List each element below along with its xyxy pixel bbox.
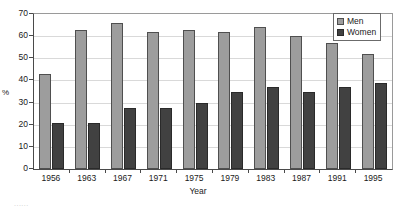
bar-men-1987 [290, 36, 302, 169]
bar-group [213, 14, 249, 169]
bar-men-1956 [39, 74, 51, 169]
legend-item-men[interactable]: Men [337, 16, 376, 27]
y-axis-tick-label: 70 [6, 9, 28, 18]
bar-group [70, 14, 106, 169]
x-axis-tick-label: 1983 [248, 174, 284, 183]
y-axis-tick-label: 60 [6, 31, 28, 40]
x-axis-tick-label: 1971 [140, 174, 176, 183]
bar-women-1956 [52, 123, 64, 170]
bar-group [177, 14, 213, 169]
bar-men-1971 [147, 32, 159, 169]
y-axis-tick-label: 40 [6, 75, 28, 84]
x-axis-tick-label: 1975 [176, 174, 212, 183]
x-axis-tick [248, 169, 249, 173]
y-axis-tick-label: 20 [6, 120, 28, 129]
bar-men-1979 [218, 32, 230, 169]
x-axis-tick [212, 169, 213, 173]
bar-men-1963 [75, 30, 87, 170]
y-axis-tick-label: 50 [6, 53, 28, 62]
legend-swatch-women-icon [337, 29, 344, 36]
legend-label-men: Men [347, 17, 364, 26]
bar-men-1995 [362, 54, 374, 169]
bar-women-1987 [303, 92, 315, 170]
x-axis-tick-label: 1991 [319, 174, 355, 183]
bar-men-1991 [326, 43, 338, 169]
x-axis-tick [319, 169, 320, 173]
legend-label-women: Women [347, 28, 376, 37]
chart-legend[interactable]: Men Women [333, 13, 381, 41]
x-axis-tick-label: 1979 [212, 174, 248, 183]
y-axis-tick-label: 10 [6, 142, 28, 151]
x-axis-tick [176, 169, 177, 173]
x-axis-tick [284, 169, 285, 173]
y-axis-tick-label: 30 [6, 98, 28, 107]
legend-item-women[interactable]: Women [337, 27, 376, 38]
bar-men-1983 [254, 27, 266, 169]
y-axis-tick-label: 0 [6, 164, 28, 173]
x-axis-tick [140, 169, 141, 173]
bar-women-1991 [339, 87, 351, 169]
x-axis-title: Year [0, 186, 396, 196]
x-axis-tick [69, 169, 70, 173]
bar-women-1983 [267, 87, 279, 169]
bar-women-1963 [88, 123, 100, 170]
bar-women-1971 [160, 108, 172, 169]
legend-swatch-men-icon [337, 18, 344, 25]
bar-women-1979 [231, 92, 243, 170]
bar-chart-figure: % 010203040506070 1956196319671971197519… [0, 0, 396, 208]
x-axis-tick-label: 1963 [69, 174, 105, 183]
bar-group [106, 14, 142, 169]
x-axis-tick [355, 169, 356, 173]
x-axis-tick [105, 169, 106, 173]
x-axis-tick-label: 1967 [105, 174, 141, 183]
bar-group [141, 14, 177, 169]
bar-group [249, 14, 285, 169]
bar-group [285, 14, 321, 169]
bar-women-1975 [196, 103, 208, 169]
bar-women-1967 [124, 108, 136, 169]
x-axis-tick-label: 1956 [33, 174, 69, 183]
y-axis-title: % [2, 88, 9, 97]
caption-fragment: ...... [14, 200, 29, 206]
x-axis-tick-label: 1995 [355, 174, 391, 183]
bar-women-1995 [375, 83, 387, 169]
x-axis-tick-label: 1987 [284, 174, 320, 183]
bar-men-1975 [183, 30, 195, 170]
bar-men-1967 [111, 23, 123, 169]
bar-group [34, 14, 70, 169]
